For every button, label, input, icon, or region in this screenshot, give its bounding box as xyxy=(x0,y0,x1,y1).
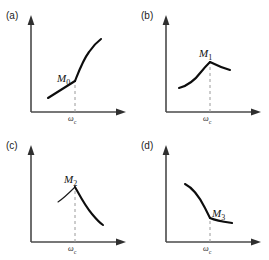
panel-d: (d) M3 ωc xyxy=(135,130,269,260)
panel-b-curve-label-sub: 1 xyxy=(208,53,212,62)
panel-c-label: (c) xyxy=(6,140,18,152)
panel-c-xtick-label: ωc xyxy=(68,244,76,253)
panel-a-curve-label-main: M xyxy=(57,72,66,84)
panel-c-curve-label-main: M xyxy=(64,173,73,185)
panel-a-curve-label: M0 xyxy=(57,73,70,84)
panel-d-xtick-sub: c xyxy=(209,249,212,255)
panel-a-xtick-sub: c xyxy=(74,119,77,125)
panel-d-plot xyxy=(135,130,269,260)
panel-c: (c) M2 ωc xyxy=(0,130,134,260)
panel-c-x-axis-arrow xyxy=(116,239,126,246)
panel-a-curve-label-sub: 0 xyxy=(66,78,70,87)
panel-b: (b) M1 ωc xyxy=(135,0,269,130)
panel-b-x-axis-arrow xyxy=(251,109,261,116)
panel-a: (a) M0 ωc xyxy=(0,0,134,130)
panel-a-plot xyxy=(0,0,134,130)
panel-d-curve-label-sub: 3 xyxy=(221,213,225,222)
panel-c-curve-label: M2 xyxy=(64,174,77,185)
panel-d-x-axis-arrow xyxy=(251,239,261,246)
panel-b-curve-fall xyxy=(210,62,230,70)
figure-four-panel-moments: (a) M0 ωc (b) M1 ωc xyxy=(0,0,269,260)
panel-c-xtick-sub: c xyxy=(74,249,77,255)
panel-b-xtick-label: ωc xyxy=(203,114,211,123)
panel-b-xtick-sub: c xyxy=(209,119,212,125)
panel-a-label: (a) xyxy=(6,10,18,22)
panel-b-curve-label-main: M xyxy=(199,47,208,59)
panel-b-plot xyxy=(135,0,269,130)
panel-d-curve-label-main: M xyxy=(212,207,221,219)
panel-c-curve-rise xyxy=(58,187,75,202)
panel-d-curve-fall xyxy=(185,184,210,218)
panel-b-curve-rise xyxy=(179,62,210,88)
panel-a-x-axis-arrow xyxy=(116,109,126,116)
panel-d-xtick-label: ωc xyxy=(203,244,211,253)
panel-d-label: (d) xyxy=(141,140,153,152)
panel-a-y-axis-arrow xyxy=(28,15,35,25)
panel-a-xtick-label: ωc xyxy=(68,114,76,123)
panel-d-curve-label: M3 xyxy=(212,208,225,219)
panel-d-y-axis-arrow xyxy=(163,145,170,155)
panel-b-curve-label: M1 xyxy=(199,48,212,59)
panel-c-plot xyxy=(0,130,134,260)
panel-b-label: (b) xyxy=(141,10,153,22)
panel-c-curve-fall xyxy=(75,187,103,225)
panel-b-y-axis-arrow xyxy=(163,15,170,25)
panel-c-curve-label-sub: 2 xyxy=(73,179,77,188)
panel-c-y-axis-arrow xyxy=(28,145,35,155)
panel-a-curve-upper xyxy=(75,39,101,81)
